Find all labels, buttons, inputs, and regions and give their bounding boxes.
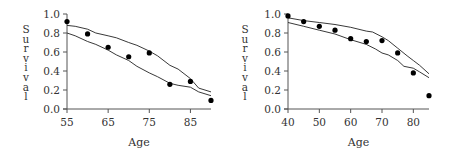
y-tick-label: 0.2 [264, 84, 281, 96]
y-tick-label: 0.0 [43, 103, 60, 115]
chart-figure: 0.00.20.40.60.81.055657585AgeSurvival0.0… [0, 0, 451, 158]
data-point [364, 39, 369, 44]
y-tick-label: 1.0 [43, 8, 60, 20]
x-tick-label: 65 [101, 116, 114, 128]
y-tick-label: 0.6 [264, 46, 281, 58]
data-point [332, 28, 337, 33]
data-point [411, 70, 416, 75]
x-tick-label: 60 [344, 116, 357, 128]
data-point [167, 82, 172, 87]
data-point [188, 79, 193, 84]
x-axis-title: Age [347, 136, 370, 149]
data-point [317, 24, 322, 29]
data-point [285, 13, 290, 18]
x-tick-label: 85 [184, 116, 197, 128]
data-point [147, 50, 152, 55]
data-point [126, 54, 131, 59]
chart-panel-1: 0.00.20.40.60.81.055657585AgeSurvival [22, 8, 214, 150]
data-point [426, 93, 431, 98]
data-point [348, 36, 353, 41]
lower-band-line [288, 23, 429, 78]
y-tick-label: 0.0 [264, 103, 281, 115]
y-tick-label: 0.4 [43, 65, 60, 77]
x-tick-label: 40 [281, 116, 294, 128]
y-tick-label: 0.6 [43, 46, 60, 58]
y-tick-label: 0.8 [43, 27, 60, 39]
data-point [64, 19, 69, 24]
x-axis-title: Age [127, 136, 150, 149]
data-point [301, 19, 306, 24]
upper-band-line [288, 18, 429, 74]
x-tick-label: 70 [375, 116, 388, 128]
survival-charts: 0.00.20.40.60.81.055657585AgeSurvival0.0… [0, 0, 451, 158]
y-tick-label: 0.2 [43, 84, 60, 96]
x-tick-label: 50 [313, 116, 326, 128]
x-tick-label: 55 [60, 116, 73, 128]
data-point [85, 31, 90, 36]
x-tick-label: 80 [407, 116, 420, 128]
data-point [208, 98, 213, 103]
lower-band-line [67, 33, 211, 96]
y-tick-label: 0.4 [264, 65, 281, 77]
data-point [106, 45, 111, 50]
y-tick-label: 1.0 [264, 8, 281, 20]
x-tick-label: 75 [143, 116, 156, 128]
data-point [395, 50, 400, 55]
data-point [379, 38, 384, 43]
chart-panel-2: 0.00.20.40.60.81.04050607080AgeSurvival [241, 8, 432, 150]
y-tick-label: 0.8 [264, 27, 281, 39]
